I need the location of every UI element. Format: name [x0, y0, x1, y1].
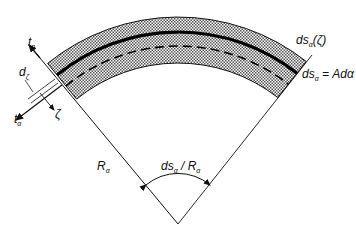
label-zeta: ζ: [55, 108, 61, 120]
d-zeta-line-1: [28, 79, 55, 99]
label-t-n: tn: [28, 36, 35, 48]
shell-band: [48, 17, 307, 99]
label-ds-alpha-zeta: dsα(ζ): [296, 34, 326, 46]
d-zeta-line-2: [31, 83, 58, 103]
label-t-alpha: tα: [14, 113, 21, 125]
d-zeta-pointer: [25, 80, 33, 92]
label-r-alpha: Rα: [97, 160, 110, 172]
label-ds-alpha-eq: dsα = Adα: [302, 68, 354, 80]
label-angle: dsα / Rα: [161, 160, 200, 172]
right-radial-line: [178, 55, 312, 224]
zeta-arrow: [40, 93, 54, 110]
angle-arc: [146, 173, 210, 185]
label-d-zeta: dζ: [19, 66, 29, 78]
